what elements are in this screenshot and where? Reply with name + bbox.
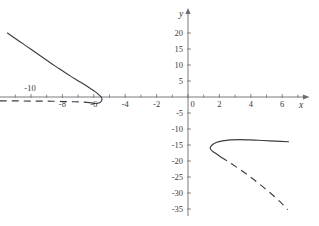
x-axis-label: x (298, 100, 304, 110)
curve-right-branch-dashed (221, 157, 288, 209)
y-tick-label-5: 5 (179, 76, 183, 86)
y-tick-label--5: -5 (176, 108, 183, 118)
x-tick-label-4: 4 (249, 99, 254, 109)
x-tick-label--8: -8 (59, 99, 66, 109)
y-tick-label--10: -10 (172, 124, 183, 134)
curves-group (0, 33, 288, 210)
x-tick-label-2: 2 (217, 99, 221, 109)
y-tick-label--15: -15 (172, 140, 183, 150)
y-tick-label-15: 15 (175, 44, 184, 54)
y-tick-label--30: -30 (172, 188, 183, 198)
y-tick-label--25: -25 (172, 172, 183, 182)
graph-figure: -10-8-6-4-202462015105-5-10-15-20-25-30-… (0, 0, 319, 226)
coordinate-plane-svg: -10-8-6-4-202462015105-5-10-15-20-25-30-… (0, 0, 319, 226)
x-axis-arrow-icon (303, 94, 310, 99)
x-tick-label--4: -4 (122, 99, 130, 109)
axes-group (0, 8, 310, 216)
y-tick-label-10: 10 (175, 60, 184, 70)
x-tick-label--10: -10 (24, 83, 35, 93)
y-axis-label: y (178, 9, 184, 19)
y-axis-arrow-icon (185, 8, 190, 14)
curve-left-branch-dashed (0, 101, 91, 103)
y-tick-label--35: -35 (172, 204, 183, 214)
curve-right-branch-solid (210, 140, 288, 158)
tick-labels-group: -10-8-6-4-202462015105-5-10-15-20-25-30-… (24, 28, 284, 214)
curve-left-branch-solid (7, 33, 102, 104)
y-tick-label--20: -20 (172, 156, 183, 166)
x-tick-label-6: 6 (280, 99, 284, 109)
y-tick-label-20: 20 (175, 28, 184, 38)
x-tick-label--2: -2 (153, 99, 160, 109)
tick-marks-group (15, 33, 298, 209)
x-tick-label-0: 0 (190, 99, 194, 109)
